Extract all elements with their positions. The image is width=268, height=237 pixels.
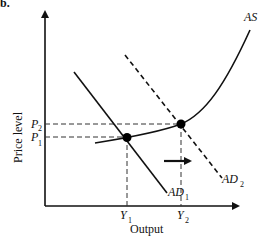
svg-text:AD: AD	[221, 172, 238, 186]
svg-text:AD: AD	[167, 185, 184, 199]
equilibrium-point-1	[123, 133, 132, 142]
svg-text:2: 2	[185, 216, 189, 225]
as-curve	[95, 30, 250, 143]
ad-as-diagram: b. Price level P 2 P 1 Y 1 Y 2 Output AS	[0, 0, 268, 237]
svg-text:Y: Y	[120, 208, 128, 222]
equilibrium-point-2	[177, 120, 186, 129]
svg-text:1: 1	[38, 139, 42, 148]
y2-label: Y 2	[177, 208, 189, 225]
ad1-label: AD 1	[167, 185, 189, 202]
svg-text:2: 2	[240, 180, 244, 189]
panel-label: b.	[0, 0, 10, 10]
ad2-curve	[125, 55, 222, 178]
svg-text:1: 1	[185, 193, 189, 202]
guide-lines	[45, 124, 181, 206]
x-axis-label: Output	[130, 222, 164, 236]
as-label: AS	[243, 10, 257, 24]
svg-text:Y: Y	[177, 208, 185, 222]
ad2-label: AD 2	[221, 172, 244, 189]
svg-text:2: 2	[38, 124, 42, 133]
y-axis-label: Price level	[11, 111, 25, 163]
